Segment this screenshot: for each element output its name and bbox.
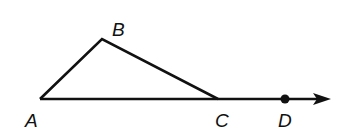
label-a: A xyxy=(24,110,38,131)
point-d-dot xyxy=(281,95,290,104)
triangle-side-ab-bc xyxy=(40,39,218,99)
label-c: C xyxy=(215,110,229,131)
label-d: D xyxy=(278,110,292,131)
triangle-diagram: A B C D xyxy=(0,0,343,137)
label-b: B xyxy=(112,19,125,40)
